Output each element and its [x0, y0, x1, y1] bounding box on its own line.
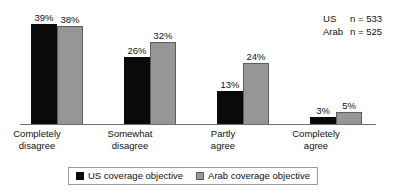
- bar-wrap-arab-1: 32%: [150, 8, 176, 125]
- bar-value-label-us-2: 13%: [220, 80, 239, 90]
- bar-wrap-arab-0: 38%: [57, 8, 83, 125]
- bar-wrap-us-0: 39%: [31, 8, 57, 125]
- bar-value-label-us-3: 3%: [316, 106, 330, 116]
- bar-us-0: [31, 24, 57, 125]
- plot-area: 39% 38% 26% 32% 13%: [20, 8, 376, 125]
- bar-value-label-arab-0: 38%: [60, 15, 79, 25]
- bar-wrap-arab-3: 5%: [336, 8, 362, 125]
- category-label-completely-agree: Completely agree: [261, 128, 371, 152]
- bar-wrap-arab-2: 24%: [243, 8, 269, 125]
- legend-label-arab: Arab coverage objective: [208, 170, 310, 181]
- bar-value-label-arab-3: 5%: [342, 101, 356, 111]
- legend-swatch-icon-us: [76, 172, 84, 180]
- bar-value-label-us-1: 26%: [127, 46, 146, 56]
- bar-arab-1: [150, 42, 176, 125]
- bar-us-1: [124, 57, 150, 125]
- bar-value-label-arab-1: 32%: [153, 31, 172, 41]
- bar-arab-0: [57, 26, 83, 125]
- bar-chart: US n = 533 Arab n = 525 39% 38% 26%: [0, 0, 400, 195]
- bar-wrap-us-3: 3%: [310, 8, 336, 125]
- bar-value-label-arab-2: 24%: [246, 52, 265, 62]
- bar-wrap-us-1: 26%: [124, 8, 150, 125]
- legend-item-arab: Arab coverage objective: [196, 170, 310, 181]
- x-axis-line: [20, 124, 376, 125]
- bar-us-2: [217, 91, 243, 125]
- bar-group-completely-agree: 3% 5%: [310, 8, 362, 125]
- legend-label-us: US coverage objective: [88, 170, 183, 181]
- chart-legend: US coverage objective Arab coverage obje…: [68, 167, 318, 185]
- bar-group-partly-agree: 13% 24%: [217, 8, 269, 125]
- bar-arab-2: [243, 63, 269, 125]
- bar-wrap-us-2: 13%: [217, 8, 243, 125]
- legend-swatch-icon-arab: [196, 172, 204, 180]
- category-label-line-1: Completely: [261, 128, 371, 140]
- category-label-line-2: agree: [261, 140, 371, 152]
- bar-value-label-us-0: 39%: [34, 13, 53, 23]
- bar-group-somewhat-disagree: 26% 32%: [124, 8, 176, 125]
- bar-group-completely-disagree: 39% 38%: [31, 8, 83, 125]
- legend-item-us: US coverage objective: [76, 170, 183, 181]
